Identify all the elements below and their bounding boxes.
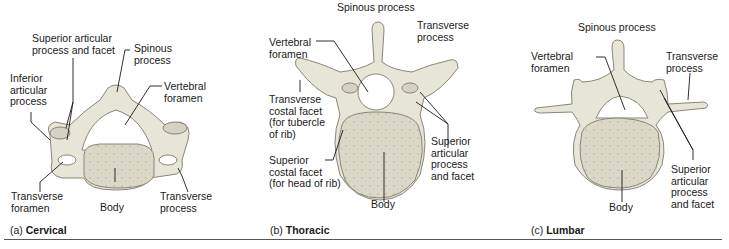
label-thoracic-body: Body — [371, 199, 395, 211]
caption-text: Thoracic — [286, 224, 330, 236]
caption-letter: (b) — [270, 224, 283, 236]
label-thoracic-spinous: Spinous process — [337, 2, 415, 14]
caption-text: Lumbar — [546, 224, 585, 236]
bottom-divider — [4, 239, 722, 240]
label-cervical-inferior-articular: Inferior articular process — [10, 73, 47, 108]
label-cervical-superior-articular: Superior articular process and facet — [32, 33, 115, 56]
caption-text: Cervical — [26, 224, 67, 236]
label-thoracic-superior-articular: Superior articular process and facet — [431, 136, 474, 182]
label-thoracic-transverse-costal-facet: Transverse costal facet (for tubercle of… — [269, 94, 325, 140]
label-cervical-transverse-process: Transverse process — [160, 191, 212, 214]
label-lumbar-transverse-process: Transverse process — [666, 51, 718, 74]
caption-letter: (a) — [10, 224, 23, 236]
label-cervical-spinous: Spinous process — [134, 43, 172, 66]
label-cervical-transverse-foramen: Transverse foramen — [11, 191, 63, 214]
label-thoracic-vertebral-foramen: Vertebral foramen — [269, 37, 311, 60]
caption-thoracic: (b) Thoracic — [270, 224, 330, 236]
caption-cervical: (a) Cervical — [10, 224, 67, 236]
label-cervical-vertebral-foramen: Vertebral foramen — [164, 81, 206, 104]
label-lumbar-body: Body — [609, 202, 633, 214]
label-thoracic-superior-costal-facet: Superior costal facet (for head of rib) — [269, 155, 341, 190]
label-lumbar-spinous: Spinous process — [578, 22, 656, 34]
label-lumbar-superior-articular: Superior articular process and facet — [671, 164, 714, 210]
caption-lumbar: (c) Lumbar — [531, 224, 585, 236]
label-lumbar-vertebral-foramen: Vertebral foramen — [531, 51, 573, 74]
label-thoracic-transverse-process: Transverse process — [417, 20, 469, 43]
label-cervical-body: Body — [100, 202, 124, 214]
caption-letter: (c) — [531, 224, 543, 236]
